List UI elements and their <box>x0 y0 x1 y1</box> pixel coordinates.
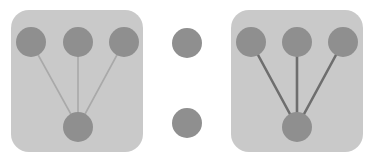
graph-node-leaf[interactable] <box>282 27 312 57</box>
graph-node-leaf[interactable] <box>236 27 266 57</box>
graph-node-hub[interactable] <box>63 112 93 142</box>
graph-node-leaf[interactable] <box>109 27 139 57</box>
diagram-canvas <box>0 0 371 164</box>
group-left-group[interactable] <box>11 10 143 152</box>
graph-node-leaf[interactable] <box>16 27 46 57</box>
group-right-group[interactable] <box>231 10 363 152</box>
middle-bottom-node[interactable] <box>172 108 202 138</box>
graph-node-leaf[interactable] <box>63 27 93 57</box>
middle-top-node[interactable] <box>172 28 202 58</box>
node-link-diagram <box>0 0 371 164</box>
graph-node-hub[interactable] <box>282 112 312 142</box>
graph-node-leaf[interactable] <box>328 27 358 57</box>
